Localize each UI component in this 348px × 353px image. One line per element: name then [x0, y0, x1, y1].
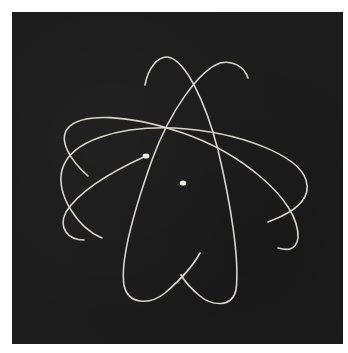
atom-illustration: [0, 0, 348, 353]
electron: [143, 153, 150, 158]
nucleus: [180, 180, 186, 185]
orbit-tilted-lower: [63, 156, 146, 240]
